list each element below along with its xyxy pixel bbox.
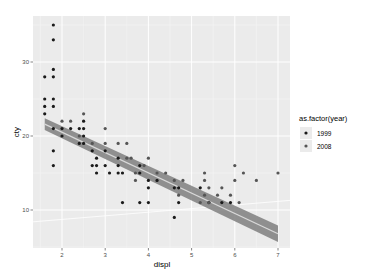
- x-tick-label: 5: [190, 252, 194, 258]
- point-1999: [52, 75, 55, 78]
- point-1999: [117, 164, 120, 167]
- point-2008: [134, 171, 137, 174]
- y-tick-label: 30: [22, 59, 29, 65]
- point-2008: [125, 157, 128, 160]
- y-tick-label: 20: [22, 133, 29, 139]
- point-1999: [52, 105, 55, 108]
- point-1999: [52, 23, 55, 26]
- x-tick-label: 7: [276, 252, 280, 258]
- legend-label-1999: 1999: [317, 130, 332, 137]
- y-tick-label: 10: [22, 207, 29, 213]
- point-1999: [60, 127, 63, 130]
- point-1999: [91, 164, 94, 167]
- point-1999: [91, 149, 94, 152]
- point-2008: [207, 186, 210, 189]
- point-1999: [155, 179, 158, 182]
- point-1999: [82, 127, 85, 130]
- point-2008: [233, 164, 236, 167]
- point-2008: [255, 179, 258, 182]
- point-2008: [220, 186, 223, 189]
- point-1999: [52, 127, 55, 130]
- x-tick-label: 4: [147, 252, 151, 258]
- x-tick-label: 3: [104, 252, 108, 258]
- point-1999: [177, 186, 180, 189]
- point-2008: [238, 201, 241, 204]
- point-2008: [60, 120, 63, 123]
- point-1999: [117, 157, 120, 160]
- legend: as.factor(year) 1999 2008: [299, 114, 348, 152]
- point-1999: [52, 38, 55, 41]
- point-1999: [95, 171, 98, 174]
- scatter-chart: 234567 102030 displ cty as.factor(year) …: [0, 0, 365, 279]
- point-2008: [276, 171, 279, 174]
- y-axis-title: cty: [12, 127, 21, 137]
- point-1999: [173, 216, 176, 219]
- point-2008: [181, 179, 184, 182]
- point-2008: [130, 157, 133, 160]
- point-2008: [117, 142, 120, 145]
- point-1999: [121, 171, 124, 174]
- point-1999: [78, 127, 81, 130]
- point-2008: [104, 127, 107, 130]
- point-1999: [220, 201, 223, 204]
- point-1999: [43, 75, 46, 78]
- point-1999: [82, 120, 85, 123]
- point-1999: [108, 171, 111, 174]
- point-2008: [199, 201, 202, 204]
- legend-point-2008-icon: [304, 144, 307, 147]
- point-2008: [104, 142, 107, 145]
- point-2008: [216, 194, 219, 197]
- point-1999: [52, 97, 55, 100]
- point-1999: [147, 179, 150, 182]
- point-1999: [69, 127, 72, 130]
- point-1999: [104, 164, 107, 167]
- x-axis: 234567: [60, 248, 280, 258]
- x-tick-label: 2: [60, 252, 64, 258]
- point-2008: [203, 179, 206, 182]
- point-2008: [207, 201, 210, 204]
- point-1999: [138, 171, 141, 174]
- point-2008: [82, 112, 85, 115]
- point-2008: [177, 194, 180, 197]
- point-2008: [203, 194, 206, 197]
- point-1999: [52, 149, 55, 152]
- point-1999: [52, 164, 55, 167]
- point-1999: [173, 186, 176, 189]
- point-1999: [229, 201, 232, 204]
- point-2008: [78, 134, 81, 137]
- point-2008: [164, 171, 167, 174]
- point-1999: [138, 201, 141, 204]
- point-1999: [104, 149, 107, 152]
- point-1999: [138, 164, 141, 167]
- point-1999: [43, 97, 46, 100]
- point-1999: [117, 171, 120, 174]
- point-2008: [69, 120, 72, 123]
- point-2008: [233, 179, 236, 182]
- point-2008: [134, 179, 137, 182]
- legend-point-1999-icon: [304, 131, 307, 134]
- point-2008: [91, 142, 94, 145]
- point-2008: [155, 171, 158, 174]
- x-tick-label: 6: [233, 252, 237, 258]
- point-1999: [95, 157, 98, 160]
- point-1999: [147, 186, 150, 189]
- point-2008: [242, 171, 245, 174]
- point-1999: [82, 134, 85, 137]
- point-1999: [121, 201, 124, 204]
- point-1999: [78, 142, 81, 145]
- point-1999: [43, 105, 46, 108]
- point-1999: [60, 134, 63, 137]
- x-axis-title: displ: [154, 260, 171, 269]
- y-axis: 102030: [22, 59, 33, 213]
- point-2008: [142, 164, 145, 167]
- point-2008: [147, 157, 150, 160]
- point-2008: [173, 179, 176, 182]
- legend-title: as.factor(year): [299, 114, 348, 123]
- point-1999: [147, 201, 150, 204]
- point-1999: [52, 68, 55, 71]
- point-2008: [203, 171, 206, 174]
- point-2008: [125, 142, 128, 145]
- point-1999: [177, 201, 180, 204]
- legend-label-2008: 2008: [317, 143, 332, 150]
- point-2008: [229, 194, 232, 197]
